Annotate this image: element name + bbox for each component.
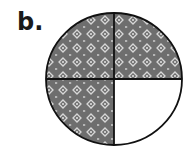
quarter-top-left	[46, 13, 114, 79]
quarter-top-right	[114, 13, 182, 79]
fraction-circle	[0, 0, 194, 149]
quarter-bottom-right	[114, 79, 182, 145]
quarter-bottom-left	[46, 79, 114, 145]
